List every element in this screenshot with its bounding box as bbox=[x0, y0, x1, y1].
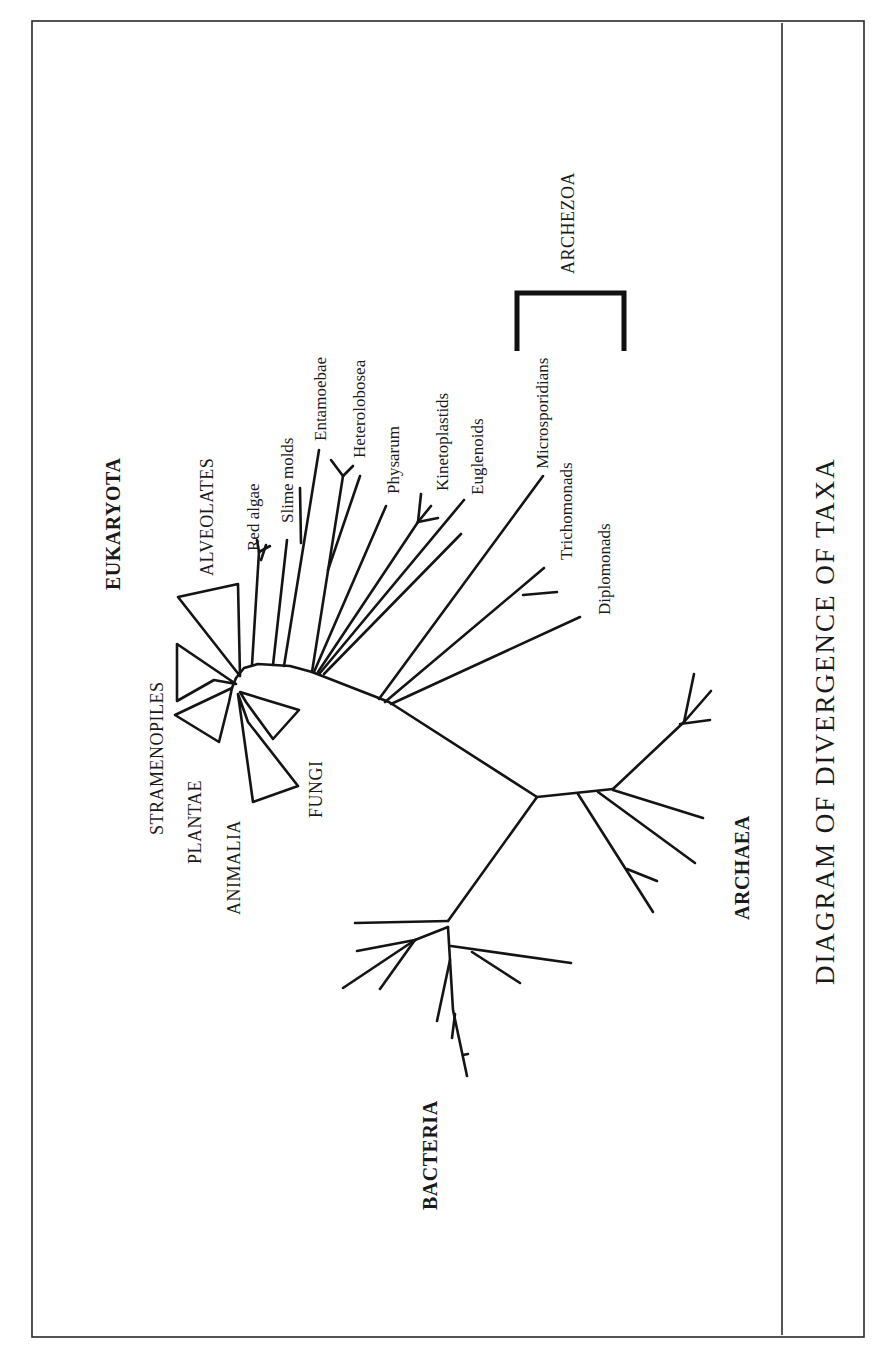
taxon-label-diplomonads: Diplomonads bbox=[595, 523, 614, 615]
domain-label-archaea: ARCHAEA bbox=[731, 815, 753, 920]
group-label-alveolates: ALVEOLATES bbox=[197, 458, 217, 576]
group-label-stramenopiles: STRAMENOPILES bbox=[147, 681, 167, 835]
domain-label-eukaryota: EUKARYOTA bbox=[102, 458, 124, 590]
domain-label-bacteria: BACTERIA bbox=[419, 1100, 441, 1210]
taxon-label-slime-molds: Slime molds bbox=[278, 438, 297, 523]
group-label-animalia: ANIMALIA bbox=[224, 820, 244, 915]
animalia-triangle bbox=[238, 694, 298, 802]
bacteria-clade bbox=[343, 921, 571, 1076]
stramenopiles-triangle bbox=[177, 644, 236, 701]
taxon-label-trichomonads: Trichomonads bbox=[557, 462, 576, 560]
group-label-fungi: FUNGI bbox=[306, 760, 326, 818]
taxon-label-microsporidians: Microsporidians bbox=[533, 358, 552, 469]
taxon-label-euglenoids: Euglenoids bbox=[468, 419, 487, 496]
alveolates-triangle bbox=[178, 584, 240, 676]
archezoa-bracket bbox=[517, 293, 624, 351]
group-label-archezoa: ARCHEZOA bbox=[558, 172, 578, 274]
taxon-label-heterolobosea: Heterolobosea bbox=[350, 359, 369, 458]
diagram-page: DIAGRAM OF DIVERGENCE OF TAXA bbox=[0, 0, 881, 1361]
archaea-clade bbox=[537, 674, 711, 912]
taxon-label-entamoebae: Entamoebae bbox=[311, 357, 330, 441]
fungi-triangle bbox=[240, 692, 299, 739]
phylogenetic-tree-diagram: DIAGRAM OF DIVERGENCE OF TAXA bbox=[0, 0, 881, 1361]
taxon-label-kinetoplastids: Kinetoplastids bbox=[433, 393, 452, 491]
group-label-plantae: PLANTAE bbox=[185, 780, 205, 864]
diagram-title: DIAGRAM OF DIVERGENCE OF TAXA bbox=[810, 457, 840, 985]
taxon-label-physarum: Physarum bbox=[384, 426, 403, 494]
eukaryota-clade bbox=[175, 450, 580, 802]
taxon-label-red-algae: Red algae bbox=[244, 484, 263, 552]
